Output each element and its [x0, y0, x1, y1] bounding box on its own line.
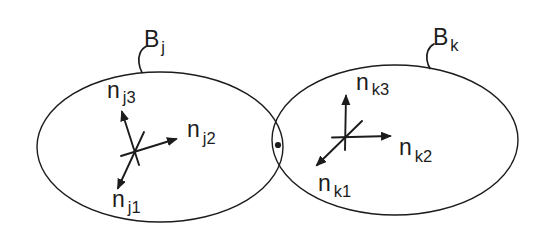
label-n-j3-sub: j3 — [122, 88, 136, 106]
axis-n-k1-arrow — [317, 121, 362, 165]
label-body-j-sub: j — [160, 38, 165, 56]
frame-k — [317, 96, 390, 165]
contact-point-dot — [275, 142, 281, 148]
figure-stage: Bj Bk nj1 nj2 nj3 nk1 nk2 nk3 — [0, 0, 545, 227]
label-n-j3: nj3 — [107, 77, 136, 106]
label-n-k2-sub: k2 — [415, 147, 432, 165]
label-body-j-main: B — [144, 26, 159, 52]
label-n-j1-main: n — [112, 186, 125, 212]
diagram-canvas: Bj Bk nj1 nj2 nj3 nk1 nk2 nk3 — [0, 0, 545, 227]
label-n-j1-sub: j1 — [127, 198, 141, 216]
label-n-k1-main: n — [318, 170, 331, 196]
label-n-k3-main: n — [356, 69, 369, 95]
label-body-j: Bj — [144, 26, 165, 56]
label-n-k3-sub: k3 — [372, 80, 389, 98]
label-body-k: Bk — [433, 24, 459, 54]
axis-n-k2-arrow — [332, 136, 390, 138]
label-n-k1-sub: k1 — [334, 182, 351, 200]
axis-n-j2-arrow — [121, 139, 176, 156]
label-body-k-sub: k — [450, 36, 459, 54]
axis-n-k3-arrow — [345, 96, 346, 150]
label-n-j3-main: n — [107, 77, 120, 103]
label-n-k1: nk1 — [318, 170, 351, 200]
label-n-j1: nj1 — [112, 186, 141, 216]
label-n-k2-main: n — [399, 134, 412, 160]
label-n-k3: nk3 — [356, 69, 389, 98]
label-body-k-main: B — [433, 24, 448, 50]
label-n-j2-sub: j2 — [202, 129, 216, 147]
label-n-j2: nj2 — [187, 116, 216, 147]
label-n-j2-main: n — [187, 116, 200, 142]
body-j-ellipse — [37, 72, 283, 222]
body-k-ellipse — [272, 65, 518, 215]
label-n-k2: nk2 — [399, 134, 432, 165]
axis-n-j3-arrow — [122, 112, 139, 165]
frame-j — [118, 112, 176, 188]
